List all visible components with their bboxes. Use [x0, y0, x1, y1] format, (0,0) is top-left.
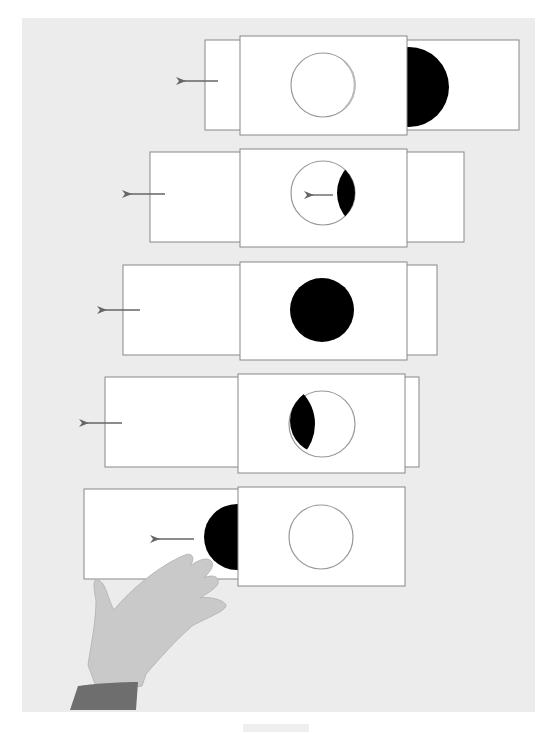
eclipse-sequence-diagram [0, 0, 551, 734]
stage-4 [87, 374, 419, 473]
sleeve [70, 682, 138, 710]
stage-1 [184, 36, 519, 135]
stage-5 [84, 487, 405, 586]
stage-2 [130, 149, 464, 247]
footer-bar [243, 724, 309, 732]
stage-3 [105, 262, 437, 360]
window-opening [289, 505, 353, 569]
black-disc-full [290, 278, 354, 342]
